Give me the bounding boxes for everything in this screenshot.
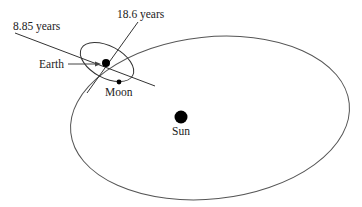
label-moon: Moon [105, 86, 133, 98]
nodal-line [87, 22, 138, 93]
label-8-85-years: 8.85 years [13, 20, 61, 33]
earth-body [102, 59, 110, 67]
label-earth: Earth [39, 58, 64, 70]
moon-body [117, 80, 122, 85]
apsidal-line [15, 33, 155, 86]
sun-body [175, 111, 188, 124]
orbit-diagram: 8.85 years 18.6 years Earth Moon Sun [0, 0, 362, 207]
earth-orbit [62, 23, 357, 207]
label-sun: Sun [172, 125, 190, 137]
label-18-6-years: 18.6 years [117, 8, 165, 21]
